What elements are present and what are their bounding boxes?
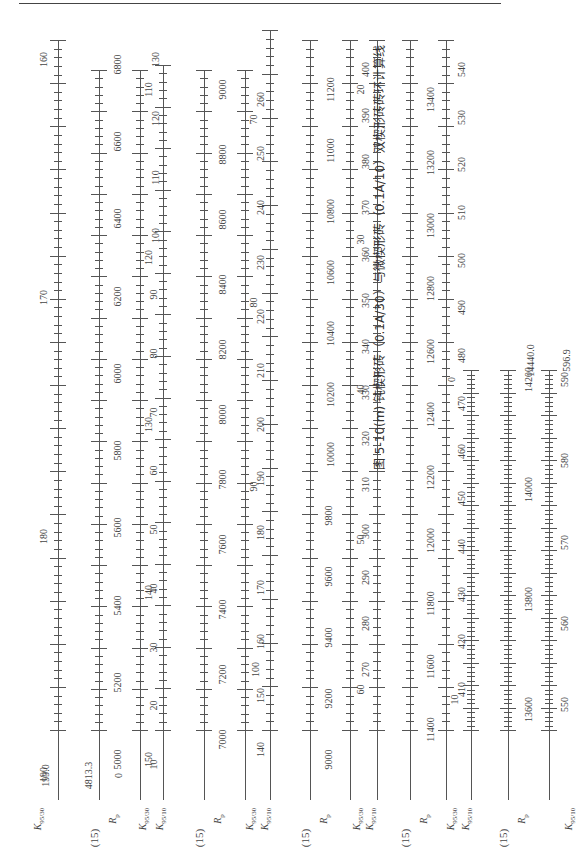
tick-label: 11800: [425, 591, 436, 616]
minor-tick: [346, 678, 354, 679]
minor-tick: [302, 126, 318, 127]
minor-tick: [262, 730, 278, 731]
minor-tick: [200, 474, 208, 475]
minor-tick: [241, 326, 249, 327]
minor-tick: [463, 393, 479, 394]
minor-tick: [159, 156, 167, 157]
minor-tick: [438, 471, 454, 472]
minor-tick: [346, 118, 354, 119]
minor-tick: [402, 558, 418, 559]
minor-tick: [200, 681, 208, 682]
tick-label: 130: [143, 417, 154, 432]
minor-tick: [95, 95, 103, 96]
minor-tick: [136, 499, 144, 500]
minor-tick: [346, 195, 354, 196]
minor-tick: [504, 429, 512, 430]
minor-tick: [545, 424, 553, 425]
minor-tick: [438, 428, 454, 429]
axis-rp: [508, 370, 509, 800]
minor-tick: [266, 485, 274, 486]
minor-tick: [132, 441, 148, 442]
minor-tick: [442, 592, 450, 593]
minor-tick: [241, 408, 249, 409]
minor-tick: [467, 429, 475, 430]
minor-tick: [545, 388, 553, 389]
minor-tick: [346, 480, 354, 481]
minor-tick: [262, 686, 278, 687]
minor-tick: [95, 202, 103, 203]
minor-tick: [346, 402, 354, 403]
minor-tick: [346, 592, 354, 593]
minor-tick: [541, 415, 557, 416]
minor-tick: [241, 516, 249, 517]
minor-tick: [467, 654, 475, 655]
minor-tick: [136, 705, 144, 706]
minor-tick: [545, 451, 553, 452]
minor-tick: [91, 483, 107, 484]
tick-label: 5000: [112, 750, 123, 770]
tick-label: 10600: [325, 260, 336, 285]
minor-tick: [467, 532, 475, 533]
minor-tick: [442, 204, 450, 205]
tick-label: 490: [456, 300, 467, 315]
minor-tick: [467, 577, 475, 578]
minor-tick: [241, 499, 249, 500]
minor-tick: [266, 625, 274, 626]
minor-tick: [136, 120, 144, 121]
minor-tick: [262, 599, 278, 600]
minor-tick: [136, 367, 144, 368]
minor-tick: [500, 618, 516, 619]
minor-tick: [262, 468, 278, 469]
minor-tick: [136, 450, 144, 451]
minor-tick: [302, 213, 318, 214]
scale-subscript: 95/30: [451, 808, 459, 824]
minor-tick: [95, 697, 103, 698]
minor-tick: [463, 550, 479, 551]
tick-label: 180: [38, 529, 49, 544]
minor-tick: [91, 565, 107, 566]
minor-tick: [369, 558, 385, 559]
minor-tick: [346, 144, 354, 145]
minor-tick: [200, 260, 208, 261]
minor-tick: [467, 703, 475, 704]
minor-tick: [266, 231, 274, 232]
minor-tick: [346, 696, 354, 697]
minor-tick: [442, 678, 450, 679]
minor-tick: [95, 681, 103, 682]
minor-tick: [342, 514, 358, 515]
minor-tick: [373, 670, 381, 671]
minor-tick: [373, 627, 381, 628]
minor-tick: [200, 705, 208, 706]
minor-tick: [467, 541, 475, 542]
minor-tick: [50, 169, 66, 170]
minor-tick: [306, 325, 314, 326]
minor-tick: [541, 618, 557, 619]
minor-tick: [346, 187, 354, 188]
minor-tick: [406, 618, 414, 619]
minor-tick: [373, 480, 381, 481]
minor-tick: [266, 371, 274, 372]
minor-tick: [136, 309, 144, 310]
minor-tick: [54, 713, 62, 714]
minor-tick: [346, 75, 354, 76]
minor-tick: [467, 667, 475, 668]
minor-tick: [54, 489, 62, 490]
minor-tick: [545, 649, 553, 650]
minor-tick: [406, 523, 414, 524]
minor-tick: [346, 290, 354, 291]
tick-label: 70: [248, 115, 259, 125]
minor-tick: [54, 204, 62, 205]
scale-label-k9530: K95/30: [445, 808, 459, 831]
minor-tick: [266, 660, 274, 661]
minor-tick: [91, 153, 107, 154]
minor-tick: [95, 557, 103, 558]
minor-tick: [136, 136, 144, 137]
minor-tick: [159, 464, 167, 465]
minor-tick: [369, 514, 385, 515]
minor-tick: [95, 672, 103, 673]
minor-tick: [132, 524, 148, 525]
scale-subscript: 95/30: [38, 808, 46, 824]
minor-tick: [241, 540, 249, 541]
minor-tick: [266, 704, 274, 705]
minor-tick: [95, 664, 103, 665]
